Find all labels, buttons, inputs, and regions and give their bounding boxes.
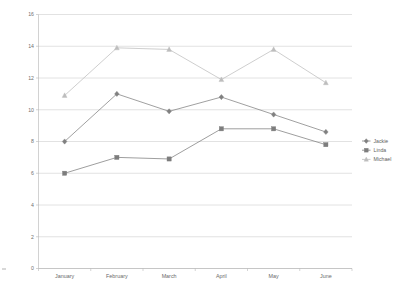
data-point-marker (324, 129, 329, 134)
chart-canvas: 0246810121416 JanuaryFebruaryMarchAprilM… (0, 0, 420, 297)
legend-label: Jackie (374, 138, 389, 144)
x-axis-category-labels: JanuaryFebruaryMarchAprilMayJune (55, 273, 332, 279)
legend-entry-jackie[interactable]: Jackie (362, 138, 388, 144)
legend-label: Michael (374, 156, 392, 162)
data-point-marker (219, 127, 223, 131)
y-tick-label: 8 (31, 138, 34, 144)
y-tick-label: 4 (31, 202, 34, 208)
data-point-marker (364, 148, 368, 152)
x-category-label: April (216, 273, 227, 279)
data-point-marker (272, 127, 276, 131)
data-point-marker (115, 155, 119, 159)
series-linda (63, 127, 328, 176)
x-axis-tickmarks (39, 269, 353, 272)
data-point-marker (324, 143, 328, 147)
y-tick-label: 0 (31, 265, 34, 271)
data-series (62, 45, 328, 175)
x-category-label: June (320, 273, 332, 279)
data-point-marker (219, 77, 224, 82)
legend-entry-linda[interactable]: Linda (362, 147, 386, 153)
y-tick-label: 16 (28, 11, 34, 17)
series-jackie (62, 91, 328, 144)
data-point-marker (364, 139, 368, 144)
data-point-marker (219, 94, 224, 99)
series-michael (62, 45, 328, 97)
series-line (65, 129, 326, 173)
left-edge-artifact (2, 268, 6, 270)
line-chart: 0246810121416 JanuaryFebruaryMarchAprilM… (0, 0, 420, 297)
y-tick-label: 6 (31, 170, 34, 176)
legend-label: Linda (374, 147, 387, 153)
y-tick-label: 2 (31, 234, 34, 240)
data-point-marker (63, 171, 67, 175)
y-tick-label: 14 (28, 43, 34, 49)
x-category-label: March (162, 273, 177, 279)
series-line (65, 94, 326, 142)
data-point-marker (271, 112, 276, 117)
x-category-label: February (106, 273, 128, 279)
data-point-marker (167, 157, 171, 161)
x-category-label: May (269, 273, 279, 279)
data-point-marker (323, 80, 328, 85)
series-line (65, 48, 326, 96)
x-category-label: January (55, 273, 74, 279)
y-tick-label: 12 (28, 75, 34, 81)
legend-entry-michael[interactable]: Michael (362, 156, 391, 162)
legend: JackieLindaMichael (362, 138, 391, 162)
y-tick-label: 10 (28, 107, 34, 113)
gridlines (39, 15, 353, 269)
data-point-marker (271, 47, 276, 52)
y-axis-ticks: 0246810121416 (28, 11, 38, 271)
